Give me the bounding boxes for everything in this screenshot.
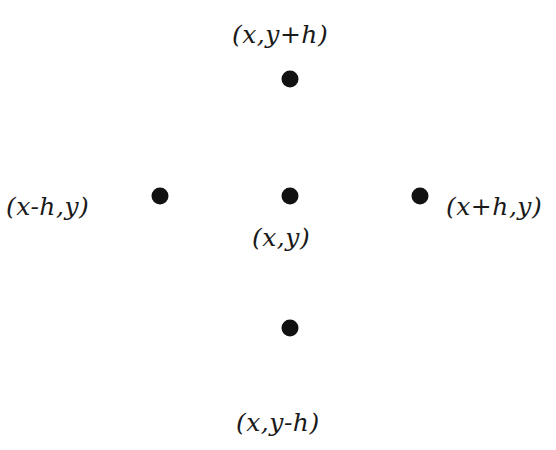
- point-right: [412, 188, 429, 205]
- point-center: [282, 188, 299, 205]
- point-top: [282, 71, 299, 88]
- label-bottom: (x,y-h): [236, 410, 320, 435]
- label-center: (x,y): [252, 225, 310, 250]
- point-bottom: [282, 320, 299, 337]
- label-top: (x,y+h): [232, 22, 328, 47]
- label-left: (x-h,y): [6, 194, 89, 219]
- point-left: [152, 188, 169, 205]
- stencil-diagram: (x,y+h) (x-h,y) (x,y) (x+h,y) (x,y-h): [0, 0, 556, 450]
- label-right: (x+h,y): [446, 194, 542, 219]
